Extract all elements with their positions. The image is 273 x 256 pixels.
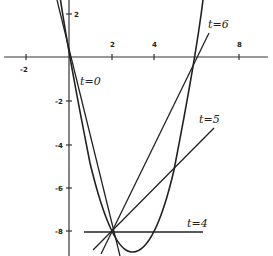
line-label-t4: t=4 xyxy=(187,217,208,230)
x-tick-label: 2 xyxy=(110,41,115,49)
parabola-curve xyxy=(61,0,204,252)
line-label-t6: t=6 xyxy=(208,18,229,31)
y-tick-label: -4 xyxy=(55,142,63,150)
y-tick-label: -8 xyxy=(55,228,63,236)
secant-lines-diagram: -2 2 4 8 2 -2 -4 -6 -8 t=0 t=4 t=5 t=6 xyxy=(0,0,273,256)
x-tick-label: -2 xyxy=(20,66,28,74)
y-tick-label: -2 xyxy=(55,98,63,106)
line-label-t0: t=0 xyxy=(80,75,101,88)
secant-line-t0 xyxy=(57,0,120,256)
x-tick-label: 4 xyxy=(152,41,157,49)
y-tick-label: -6 xyxy=(55,185,63,193)
x-tick-label: 8 xyxy=(237,41,242,49)
y-tick-label: 2 xyxy=(74,11,79,19)
line-label-t5: t=5 xyxy=(199,113,220,126)
